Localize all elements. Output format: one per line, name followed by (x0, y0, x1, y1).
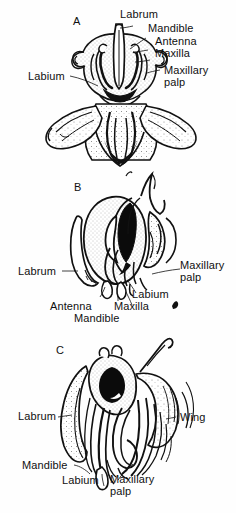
panel-b-letter: B (74, 181, 81, 193)
panel-c-label-maxillary: Maxillary (110, 473, 154, 486)
panel-a-leaders (70, 26, 160, 86)
panel-a-label-labrum: Labrum (120, 8, 158, 21)
anatomy-figure: A Labrum Mandible Antenna Maxilla Maxill… (0, 0, 236, 513)
panel-c-label-mandible: Mandible (22, 459, 67, 472)
panel-b-label-maxilla: Maxilla (114, 300, 149, 313)
panel-b-label-palp: palp (180, 271, 201, 284)
panel-a-label-labium: Labium (28, 70, 65, 83)
panel-b-label-antenna: Antenna (50, 300, 92, 313)
panel-a-label-maxillary: Maxillary (164, 64, 208, 77)
panel-a-letter: A (73, 15, 80, 27)
panel-a-label-mandible: Mandible (148, 22, 193, 35)
panel-c-label-palp: palp (110, 485, 131, 498)
panel-b-label-mandible: Mandible (74, 312, 119, 325)
panel-c-label-wing: Wing (180, 411, 205, 424)
panel-c-label-labium: Labium (62, 474, 99, 487)
panel-c-letter: C (56, 344, 64, 356)
panel-c-label-labrum: Labrum (18, 410, 56, 423)
panel-b-label-maxillary: Maxillary (180, 259, 224, 272)
panel-b-label-labium: Labium (132, 288, 169, 301)
panel-a-label-antenna: Antenna (155, 35, 197, 48)
panel-c-drawing (61, 339, 193, 490)
panel-b-label-labrum: Labrum (18, 265, 56, 278)
panel-a-label-palp: palp (164, 76, 185, 89)
panel-a-label-maxilla: Maxilla (155, 47, 190, 60)
